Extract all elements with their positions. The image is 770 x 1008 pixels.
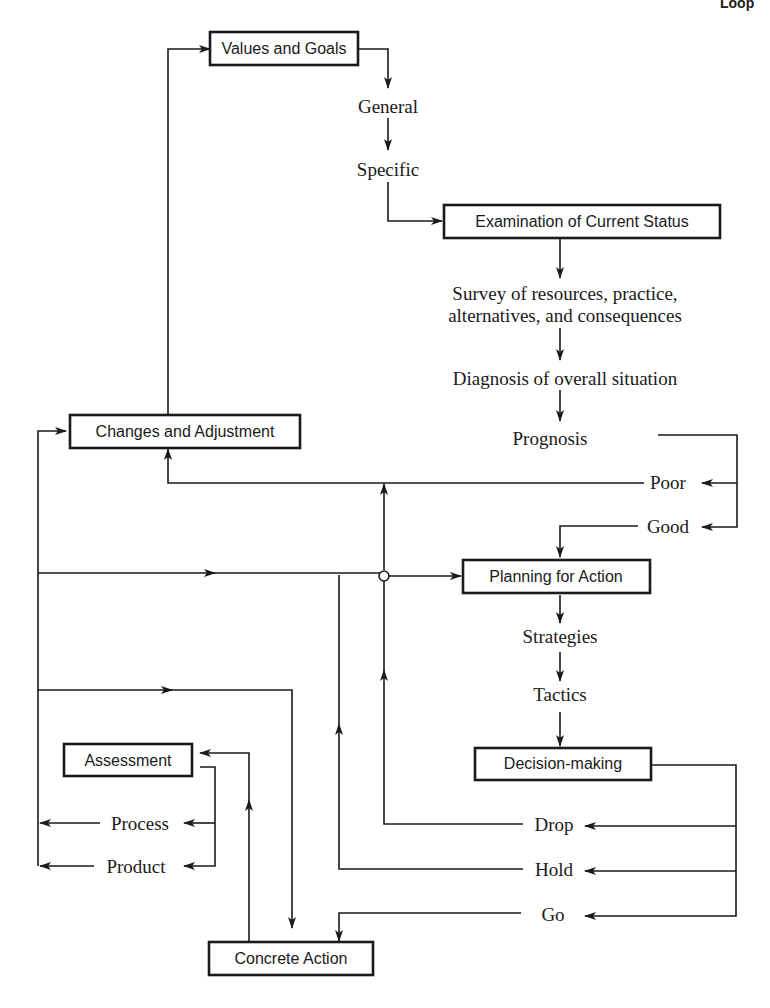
label-specific: Specific <box>357 159 419 180</box>
label-process: Process <box>111 813 169 834</box>
label-poor: Poor <box>650 472 687 493</box>
box-values-goals: Values and Goals <box>210 32 358 65</box>
box-planning: Planning for Action <box>463 560 650 593</box>
svg-text:Values and Goals: Values and Goals <box>221 40 346 57</box>
junction-node <box>379 571 389 581</box>
box-concrete-action: Concrete Action <box>209 942 373 975</box>
header-title: Loop <box>720 0 754 11</box>
label-drop: Drop <box>534 814 573 835</box>
box-decision: Decision-making <box>475 748 651 780</box>
label-go: Go <box>541 904 564 925</box>
svg-text:Changes and Adjustment: Changes and Adjustment <box>96 423 275 440</box>
box-changes: Changes and Adjustment <box>70 415 300 448</box>
svg-text:Examination of Current Status: Examination of Current Status <box>475 213 688 230</box>
box-examination: Examination of Current Status <box>444 205 720 238</box>
svg-text:Assessment: Assessment <box>84 752 172 769</box>
feedback-loop-diagram: Loop <box>0 0 770 1008</box>
label-tactics: Tactics <box>533 684 587 705</box>
svg-text:Planning for Action: Planning for Action <box>489 568 622 585</box>
label-good: Good <box>647 516 690 537</box>
svg-text:Decision-making: Decision-making <box>504 755 622 772</box>
label-strategies: Strategies <box>523 626 598 647</box>
label-survey-2: alternatives, and consequences <box>448 305 682 326</box>
label-survey-1: Survey of resources, practice, <box>452 283 677 304</box>
label-hold: Hold <box>535 859 574 880</box>
box-assessment: Assessment <box>64 744 192 776</box>
label-prognosis: Prognosis <box>513 428 588 449</box>
label-diagnosis: Diagnosis of overall situation <box>453 368 678 389</box>
svg-text:Concrete Action: Concrete Action <box>235 950 348 967</box>
label-product: Product <box>106 856 166 877</box>
label-general: General <box>358 96 418 117</box>
connectors <box>38 49 737 941</box>
